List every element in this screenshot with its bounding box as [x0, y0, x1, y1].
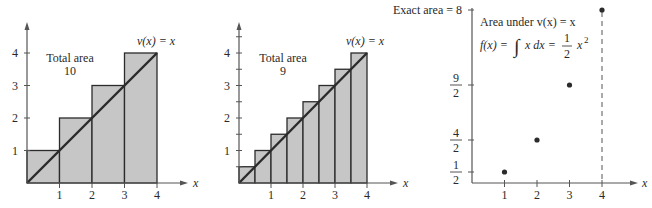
- y-axis-arrow-icon: [25, 22, 30, 30]
- bar-6: [335, 69, 351, 183]
- x-tick-label: 4: [154, 188, 160, 202]
- data-point-3: [599, 7, 604, 12]
- x-tick-label: 3: [567, 188, 573, 202]
- y-tick-numerator: 9: [453, 71, 459, 85]
- total-area-value: 10: [64, 64, 76, 78]
- bar-3: [125, 53, 158, 183]
- total-area-value: 9: [280, 64, 286, 78]
- bar-1: [255, 151, 271, 184]
- formula-rhs: x: [576, 38, 583, 52]
- x-tick-label: 4: [364, 188, 370, 202]
- formula-frac-den: 2: [564, 47, 570, 61]
- y-tick-numerator: 1: [453, 158, 459, 172]
- formula-frac-num: 1: [564, 31, 570, 45]
- panel-upper-sum-width-1: x12341234v(x) = xTotal area10: [12, 22, 199, 202]
- total-area-label: Total area: [46, 51, 94, 65]
- panel-exact-area-scatter: x1234124292Exact area = 8Area under v(x)…: [393, 3, 648, 202]
- function-label: v(x) = x: [137, 34, 176, 48]
- data-point-1: [534, 137, 539, 142]
- y-tick-label: 1: [12, 144, 18, 158]
- y-tick-label: 3: [224, 79, 230, 93]
- x-tick-label: 2: [300, 188, 306, 202]
- x-tick-label: 1: [268, 188, 274, 202]
- formula-integrand: x dx =: [524, 38, 556, 52]
- x-axis-arrow-icon: [390, 181, 398, 186]
- formula-exponent: 2: [584, 35, 589, 45]
- y-tick-numerator: 4: [453, 126, 459, 140]
- y-tick-label: 4: [12, 46, 18, 60]
- bar-1: [60, 118, 93, 183]
- bar-7: [351, 53, 367, 183]
- y-axis-arrow-icon: [237, 22, 242, 30]
- y-tick-label: 2: [12, 111, 18, 125]
- x-tick-label: 2: [89, 188, 95, 202]
- x-tick-label: 2: [534, 188, 540, 202]
- total-area-label: Total area: [259, 51, 307, 65]
- riemann-sum-figure: x12341234v(x) = xTotal area10 x12341234v…: [0, 0, 652, 208]
- y-tick-label: 2: [224, 111, 230, 125]
- function-label: v(x) = x: [346, 34, 385, 48]
- y-tick-denominator: 2: [453, 141, 459, 155]
- integral-sign: ∫: [512, 35, 521, 59]
- y-tick-label: 3: [12, 79, 18, 93]
- data-point-0: [502, 169, 507, 174]
- x-axis-label: x: [641, 176, 648, 190]
- x-tick-label: 1: [502, 188, 508, 202]
- x-axis-label: x: [402, 176, 409, 190]
- figure: x12341234v(x) = xTotal area10 x12341234v…: [0, 0, 652, 208]
- x-tick-label: 4: [599, 188, 605, 202]
- x-axis-arrow-icon: [630, 181, 638, 186]
- scatter-title: Area under v(x) = x: [480, 15, 575, 29]
- x-axis-label: x: [192, 176, 199, 190]
- x-axis-arrow-icon: [180, 181, 188, 186]
- x-tick-label: 3: [122, 188, 128, 202]
- formula-lhs: f(x) =: [480, 38, 508, 52]
- exact-area-label: Exact area = 8: [393, 3, 462, 17]
- data-point-2: [567, 82, 572, 87]
- x-tick-label: 1: [57, 188, 63, 202]
- y-tick-denominator: 2: [453, 173, 459, 187]
- y-tick-denominator: 2: [453, 86, 459, 100]
- y-tick-label: 4: [224, 46, 230, 60]
- panel-upper-sum-width-half: x12341234v(x) = xTotal area9: [224, 22, 409, 202]
- x-tick-label: 3: [332, 188, 338, 202]
- y-tick-label: 1: [224, 144, 230, 158]
